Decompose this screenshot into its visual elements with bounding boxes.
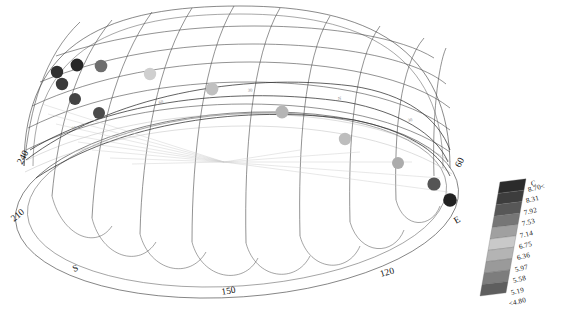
data-point-marker	[144, 68, 156, 80]
azimuth-tick-label: 60	[453, 156, 466, 169]
elevation-tick-label: 30	[407, 117, 413, 123]
azimuth-tick-label: 210	[9, 207, 27, 224]
elevation-tick-label: N	[338, 96, 342, 101]
data-point-marker	[206, 83, 219, 96]
elevation-tick-label: 30	[248, 87, 254, 93]
data-point-marker	[276, 106, 289, 119]
data-point-marker	[69, 93, 81, 105]
azimuth-tick-label: E	[452, 214, 462, 226]
sun-path-arcs	[26, 82, 450, 178]
data-point-marker	[95, 60, 108, 73]
elevation-tick-label: 60	[158, 99, 164, 105]
sky-dome-plot: 240210S150120E60 306030N30	[0, 0, 470, 316]
dome-rim	[24, 6, 450, 168]
colorbar: C8.70<8.317.927.537.146.756.365.975.585.…	[462, 176, 570, 316]
data-point-marker	[93, 107, 105, 119]
horizon-ring-outer	[9, 98, 465, 313]
data-point-marker	[339, 133, 351, 145]
data-point-marker	[427, 177, 440, 190]
azimuth-tick-label: 240	[15, 148, 31, 165]
data-point-marker	[392, 157, 404, 169]
azimuth-tick-label: 150	[221, 285, 237, 297]
elevation-rings	[26, 26, 450, 152]
azimuth-tick-label: S	[71, 263, 80, 274]
data-point-marker	[71, 59, 84, 72]
azimuth-tick-label: 120	[379, 265, 396, 279]
figure-caption	[2, 306, 302, 316]
data-point-marker	[51, 66, 63, 78]
data-point-marker	[443, 193, 457, 207]
data-point-marker	[56, 78, 68, 90]
sun-path-figure: 240210S150120E60 306030N30 C8.70<8.317.9…	[0, 0, 570, 316]
elevation-tick-label: 30	[71, 125, 77, 131]
